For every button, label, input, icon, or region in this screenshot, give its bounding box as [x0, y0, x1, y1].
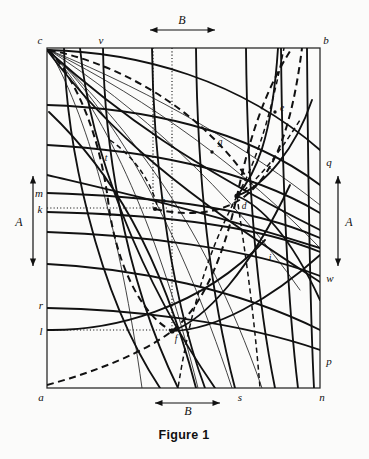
corner-label-c: c — [38, 34, 43, 46]
node-marker-g — [210, 150, 213, 153]
v-curve-7 — [307, 48, 314, 388]
right-a-arrow-top — [335, 176, 341, 184]
node-marker-h — [153, 207, 157, 211]
curve-family-horizontal — [47, 50, 320, 350]
dimension-top-b: B — [150, 13, 215, 33]
dimension-label-bottom-b: B — [184, 404, 192, 418]
node-curve-6 — [47, 240, 265, 330]
point-label-d: d — [242, 201, 247, 211]
point-label-g: g — [218, 137, 223, 147]
curve-network — [47, 48, 320, 388]
point-label-t: t — [105, 153, 108, 163]
node-marker-f — [169, 328, 174, 333]
left-a-arrow-top — [30, 176, 36, 184]
fan-ray-7 — [49, 50, 142, 388]
edge-label-k: k — [38, 203, 44, 215]
edge-label-p: p — [325, 355, 332, 367]
edge-label-r: r — [39, 299, 44, 311]
dimension-right-a: A — [335, 176, 353, 266]
corner-label-n: n — [319, 391, 325, 403]
figure-caption: Figure 1 — [158, 428, 209, 442]
dashed-curve-5 — [237, 196, 260, 388]
right-a-arrow-bottom — [335, 259, 341, 267]
node-marker-d — [234, 193, 239, 198]
dimension-bottom-b: B — [155, 400, 220, 418]
edge-label-l: l — [39, 325, 42, 337]
dimension-label-top-b: B — [178, 13, 186, 27]
dashed-curve-4 — [155, 48, 302, 213]
edge-label-w: w — [326, 272, 334, 284]
figure-container: B B A A — [0, 0, 369, 459]
edge-label-m: m — [35, 187, 43, 199]
v-curve-1 — [64, 48, 160, 388]
corner-label-a: a — [38, 391, 44, 403]
node-marker-e — [273, 110, 276, 113]
point-label-i: i — [269, 253, 272, 263]
top-b-arrow-right — [208, 27, 216, 33]
left-a-arrow-bottom — [30, 259, 36, 267]
edge-label-q: q — [326, 156, 332, 168]
bottom-b-arrow-left — [155, 400, 163, 406]
top-b-arrow-left — [150, 27, 158, 33]
edge-label-v: v — [99, 34, 104, 46]
point-label-h: h — [161, 196, 166, 206]
dimension-label-right-a: A — [344, 215, 353, 229]
corner-label-b: b — [323, 34, 329, 46]
point-label-e: e — [280, 103, 284, 113]
dimension-left-a: A — [14, 176, 36, 266]
bottom-b-arrow-right — [213, 400, 221, 406]
h-curve-2 — [47, 105, 320, 185]
dimension-label-left-a: A — [14, 215, 23, 229]
node-curve-4 — [49, 112, 196, 388]
point-label-f: f — [175, 334, 179, 344]
fan-ray-6 — [49, 50, 300, 290]
figure-drawing: B B A A — [0, 0, 369, 459]
edge-label-s: s — [238, 391, 242, 403]
